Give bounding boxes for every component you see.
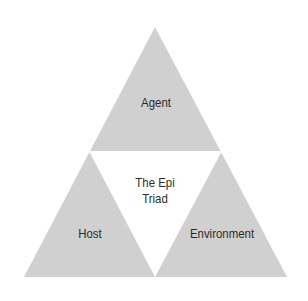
segment-label-host: Host: [78, 226, 102, 242]
center-title-line1: The Epi: [129, 175, 182, 191]
epi-triad-diagram: Agent Host Environment The Epi Triad: [0, 0, 308, 301]
segment-label-environment: Environment: [190, 226, 254, 242]
triad-shapes: [0, 0, 308, 301]
center-title-line2: Triad: [129, 191, 182, 207]
center-title: The Epi Triad: [129, 175, 182, 207]
segment-label-agent: Agent: [141, 95, 171, 111]
